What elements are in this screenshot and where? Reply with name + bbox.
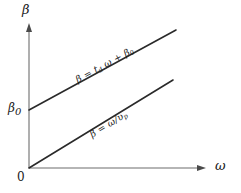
y-intercept-tick-label: β0 [8, 102, 21, 117]
x-axis-arrow-icon [197, 165, 206, 171]
origin-label: 0 [17, 171, 25, 183]
x-axis-label: ω [215, 159, 226, 172]
y-axis-label: β [22, 3, 30, 16]
diagram-canvas [0, 0, 241, 193]
y-axis-arrow-icon [26, 23, 32, 32]
dispersion-diagram: β ω β0 0 β = td ω + β0 β = ω/υp [0, 0, 241, 193]
y-intercept-symbol: β [8, 101, 15, 115]
y-intercept-subscript: 0 [15, 106, 21, 117]
